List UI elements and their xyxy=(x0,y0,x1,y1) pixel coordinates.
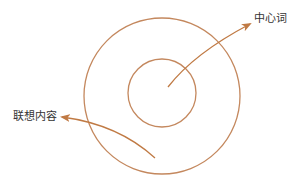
outer-circle xyxy=(84,18,240,174)
association-arrow xyxy=(62,117,155,158)
concentric-circle-diagram: 中心词 联想内容 xyxy=(0,0,293,183)
diagram-canvas xyxy=(0,0,293,183)
association-content-label: 联想内容 xyxy=(13,111,57,123)
inner-circle xyxy=(128,59,196,127)
center-word-label: 中心词 xyxy=(254,13,287,25)
